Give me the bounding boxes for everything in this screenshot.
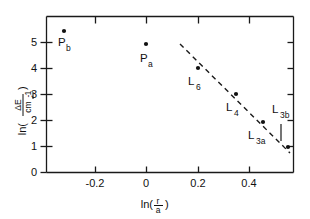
annotation-L3b-subscript: 3b: [280, 110, 290, 120]
annotation-L3a-base: L: [248, 129, 255, 141]
y-ticklabel-4: 4: [31, 62, 37, 74]
annotation-Pb: P b: [58, 36, 71, 53]
annotation-Pa: P a: [140, 52, 153, 69]
plot-canvas: 0 1 2 3 4 5: [0, 0, 310, 219]
x-ticklabel-0p2: 0.2: [190, 177, 205, 189]
y-axis-label-close: ): [16, 86, 28, 90]
y-axis-label: ln( ΔE cm - 1 ): [13, 86, 33, 135]
top-axis-ticks: [96, 17, 250, 24]
annotation-L6: L 6: [188, 75, 201, 92]
point-annotations: P b P a L 6 L 4 L 3a: [58, 36, 290, 146]
x-axis-ticks: [96, 167, 250, 173]
annotation-Pb-base: P: [58, 36, 66, 48]
y-ticklabel-0: 0: [31, 166, 37, 178]
annotation-L6-base: L: [188, 75, 195, 87]
annotation-L4-base: L: [226, 101, 233, 113]
annotation-L4: L 4: [226, 101, 239, 118]
data-point-L3a: [261, 120, 265, 124]
annotation-Pa-base: P: [140, 52, 148, 64]
x-axis-label-close: ): [165, 198, 169, 210]
right-axis-ticks: [288, 43, 294, 147]
y-ticklabel-5: 5: [31, 36, 37, 48]
y-axis-label-exponent-one: 1: [23, 90, 33, 95]
annotation-L3b-base: L: [272, 103, 279, 115]
data-point-L3b: [286, 145, 290, 149]
x-axis-tick-labels: -0.2 0 0.2 0.4: [86, 177, 257, 189]
x-axis-label-ln: ln(: [141, 198, 154, 210]
annotation-L3a-subscript: 3a: [256, 136, 266, 146]
x-axis-label: ln( r a ): [141, 196, 169, 215]
scatter-plot-figure: 0 1 2 3 4 5: [0, 0, 310, 219]
data-points-group: [62, 29, 290, 149]
annotation-L4-subscript: 4: [234, 108, 239, 118]
x-axis-label-denominator: a: [156, 205, 161, 215]
data-point-Pa: [144, 42, 148, 46]
annotation-L3a: L 3a: [248, 129, 266, 146]
x-ticklabel-0: 0: [143, 177, 149, 189]
plot-frame: [47, 17, 294, 173]
data-point-Pb: [62, 29, 66, 33]
y-axis-label-numerator: ΔE: [13, 99, 23, 111]
annotation-Pa-subscript: a: [148, 59, 153, 69]
data-point-L6: [196, 66, 200, 70]
y-ticklabel-2: 2: [31, 114, 37, 126]
dashed-trend-line: [180, 44, 290, 153]
annotation-L6-subscript: 6: [196, 82, 201, 92]
data-point-L4: [234, 92, 238, 96]
y-axis-label-ln: ln(: [16, 123, 28, 136]
annotation-L3b: L 3b: [272, 103, 290, 141]
y-axis-label-denominator: cm: [23, 101, 33, 112]
x-ticklabel-0p4: 0.4: [241, 177, 256, 189]
annotation-Pb-subscript: b: [66, 43, 71, 53]
x-ticklabel-neg0p2: -0.2: [86, 177, 105, 189]
y-ticklabel-1: 1: [31, 140, 37, 152]
